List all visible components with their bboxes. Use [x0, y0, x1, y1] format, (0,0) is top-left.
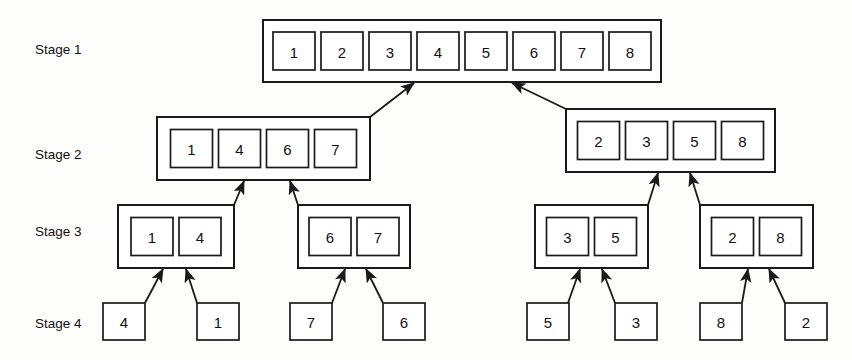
- cell-value: 5: [690, 133, 698, 150]
- arrow-leaf1-to-s3a: [186, 269, 197, 303]
- arrow-leaf6-to-s3b: [366, 269, 383, 303]
- cell-value: 8: [738, 133, 746, 150]
- arrow-s3b-to-s2left: [290, 181, 298, 205]
- leaf-boxes-layer: 41765382: [103, 303, 827, 340]
- leaf-value: 1: [214, 314, 222, 331]
- leaf-value: 4: [120, 314, 128, 331]
- cell-value: 4: [434, 44, 442, 61]
- cell-value: 6: [283, 141, 291, 158]
- leaf-leaf-5: 5: [527, 303, 569, 340]
- cell-value: 3: [563, 229, 571, 246]
- cell-value: 2: [338, 44, 346, 61]
- leaf-leaf-1: 1: [197, 303, 239, 340]
- leaf-leaf-7: 7: [290, 303, 332, 340]
- cell-value: 7: [374, 229, 382, 246]
- merge-sort-diagram: Stage 1Stage 2Stage 3Stage 4 12345678146…: [0, 0, 852, 360]
- cell-value: 8: [626, 44, 634, 61]
- stage-label-3: Stage 3: [35, 224, 82, 239]
- stage-label-1: Stage 1: [35, 42, 82, 57]
- leaf-value: 8: [717, 314, 725, 331]
- group-stage3-b: 67: [298, 205, 410, 268]
- group-stage3-a: 14: [118, 205, 234, 268]
- cell-value: 2: [594, 133, 602, 150]
- cell-value: 7: [331, 141, 339, 158]
- leaf-leaf-4: 4: [103, 303, 145, 340]
- arrow-leaf8-to-s3d: [742, 269, 748, 303]
- cell-value: 6: [530, 44, 538, 61]
- group-stage2-left: 1467: [157, 117, 370, 180]
- cell-value: 4: [235, 141, 243, 158]
- arrow-s2left-to-s1: [370, 83, 414, 117]
- arrow-s2right-to-s1: [512, 83, 566, 109]
- cell-value: 5: [482, 44, 490, 61]
- arrow-s3c-to-s2right: [648, 173, 658, 205]
- leaf-value: 5: [544, 314, 552, 331]
- cell-value: 7: [578, 44, 586, 61]
- cell-value: 1: [187, 141, 195, 158]
- cell-value: 6: [326, 229, 334, 246]
- cell-value: 4: [196, 229, 204, 246]
- arrow-leaf3-to-s3c: [602, 269, 615, 303]
- arrow-leaf4-to-s3a: [145, 269, 163, 303]
- group-stage1-merged: 12345678: [263, 20, 661, 82]
- stage-labels: Stage 1Stage 2Stage 3Stage 4: [35, 42, 82, 331]
- leaf-leaf-2: 2: [785, 303, 827, 340]
- group-stage3-d: 28: [700, 205, 813, 268]
- leaf-leaf-6: 6: [383, 303, 425, 340]
- stage-label-2: Stage 2: [35, 147, 82, 162]
- cell-value: 3: [642, 133, 650, 150]
- leaf-value: 2: [802, 314, 810, 331]
- diagram-canvas: Stage 1Stage 2Stage 3Stage 4 12345678146…: [0, 0, 852, 360]
- group-boxes-layer: 123456781467235814673528: [118, 20, 813, 268]
- stage-label-4: Stage 4: [35, 316, 82, 331]
- arrow-leaf7-to-s3b: [332, 269, 345, 303]
- arrow-s3a-to-s2left: [234, 181, 244, 205]
- leaf-value: 3: [632, 314, 640, 331]
- arrow-leaf5-to-s3c: [568, 269, 580, 303]
- arrow-leaf2-to-s3d: [769, 269, 785, 303]
- cell-value: 1: [290, 44, 298, 61]
- cell-value: 5: [611, 229, 619, 246]
- cell-value: 8: [776, 229, 784, 246]
- cell-value: 3: [386, 44, 394, 61]
- leaf-value: 7: [307, 314, 315, 331]
- arrow-s3d-to-s2right: [690, 173, 700, 205]
- cell-value: 2: [728, 229, 736, 246]
- group-stage3-c: 35: [535, 205, 648, 268]
- leaf-leaf-8: 8: [700, 303, 742, 340]
- leaf-leaf-3b: 3: [615, 303, 657, 340]
- leaf-value: 6: [400, 314, 408, 331]
- group-stage2-right: 2358: [566, 109, 775, 172]
- cell-value: 1: [148, 229, 156, 246]
